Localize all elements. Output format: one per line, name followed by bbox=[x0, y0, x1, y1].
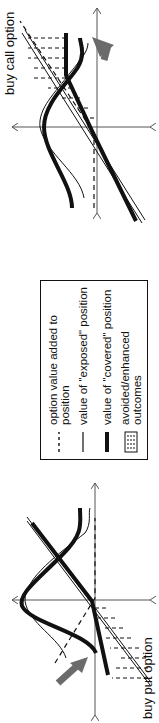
thick-line-icon bbox=[100, 431, 114, 453]
exposed-distribution-curve bbox=[40, 43, 88, 198]
legend-label: value of "covered" position bbox=[101, 290, 113, 425]
legend-label: avoided/enhanced outcomes bbox=[119, 287, 143, 425]
call-panel-title: buy call option bbox=[2, 12, 17, 95]
legend-item-covered: value of "covered" position bbox=[95, 287, 119, 453]
thin-line-icon bbox=[76, 431, 90, 453]
legend-item-option-value: option value added to position bbox=[47, 287, 71, 453]
legend: option value added to position value of … bbox=[40, 280, 148, 460]
dashed-line-icon bbox=[52, 431, 66, 453]
legend-item-exposed: value of "exposed" position bbox=[71, 287, 95, 453]
call-option-panel: buy call option bbox=[0, 0, 159, 243]
hedging-diagram: buy put option bbox=[0, 0, 159, 723]
shift-arrow-icon bbox=[58, 657, 88, 683]
call-option-plot bbox=[0, 0, 159, 243]
legend-label: option value added to position bbox=[47, 287, 71, 425]
put-panel-title: buy put option bbox=[140, 637, 155, 719]
hatched-box-icon bbox=[124, 431, 138, 453]
covered-distribution-curve bbox=[44, 38, 82, 208]
legend-label: value of "exposed" position bbox=[77, 287, 89, 425]
exposed-position-line bbox=[27, 521, 150, 685]
shift-arrow-icon bbox=[92, 37, 114, 60]
put-option-plot bbox=[0, 473, 159, 723]
put-option-panel: buy put option bbox=[0, 473, 159, 723]
legend-item-avoided: avoided/enhanced outcomes bbox=[119, 287, 143, 453]
